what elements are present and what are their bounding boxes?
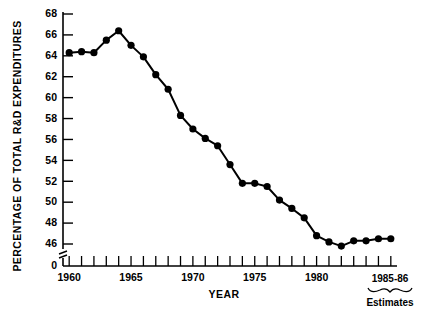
- y-tick-label-zero: 0: [51, 259, 57, 271]
- data-point-1973: [226, 161, 233, 168]
- estimates-label: Estimates: [366, 297, 414, 308]
- y-tick-label-50: 50: [45, 195, 57, 207]
- y-tick-label-68: 68: [45, 7, 57, 19]
- data-point-1979: [301, 214, 308, 221]
- y-tick-label-64: 64: [45, 49, 57, 61]
- x-axis-title-text: YEAR: [209, 288, 240, 300]
- data-point-1975: [251, 180, 258, 187]
- data-point-1983: [350, 237, 357, 244]
- y-tick-label-58: 58: [45, 112, 57, 124]
- data-point-1981: [325, 238, 332, 245]
- y-tick-label-66: 66: [45, 28, 57, 40]
- data-point-1985: [375, 235, 382, 242]
- data-point-1970: [189, 125, 196, 132]
- data-point-1963: [103, 37, 110, 44]
- x-tick-label-1965: 1965: [119, 271, 143, 283]
- y-tick-label-56: 56: [45, 133, 57, 145]
- y-tick-label-48: 48: [45, 216, 57, 228]
- x-tick-label-1970: 1970: [181, 271, 205, 283]
- data-point-1974: [239, 180, 246, 187]
- x-tick-label-1975: 1975: [243, 271, 267, 283]
- data-point-1964: [115, 27, 122, 34]
- data-point-1965: [127, 42, 134, 49]
- y-tick-label-54: 54: [45, 154, 57, 166]
- y-tick-label-52: 52: [45, 175, 57, 187]
- data-point-1980: [313, 232, 320, 239]
- data-point-1978: [288, 205, 295, 212]
- data-point-1986: [387, 235, 394, 242]
- y-tick-label-60: 60: [45, 91, 57, 103]
- data-point-1971: [202, 135, 209, 142]
- data-point-1960: [66, 49, 73, 56]
- data-point-1982: [338, 242, 345, 249]
- x-tick-label-1960: 1960: [58, 271, 82, 283]
- data-point-1966: [140, 53, 147, 60]
- data-point-1976: [264, 183, 271, 190]
- x-axis-title: YEAR: [209, 288, 240, 300]
- rd-expenditures-line-chart: PERCENTAGE OF TOTAL R&D EXPENDITURES 464…: [0, 0, 442, 318]
- data-point-1972: [214, 142, 221, 149]
- y-tick-label-62: 62: [45, 70, 57, 82]
- y-axis-title-text: PERCENTAGE OF TOTAL R&D EXPENDITURES: [11, 20, 23, 271]
- data-point-1984: [362, 237, 369, 244]
- data-point-1962: [90, 49, 97, 56]
- y-axis-title: PERCENTAGE OF TOTAL R&D EXPENDITURES: [11, 20, 23, 271]
- data-point-1968: [165, 86, 172, 93]
- data-point-1977: [276, 196, 283, 203]
- y-tick-label-46: 46: [45, 237, 57, 249]
- data-point-1969: [177, 112, 184, 119]
- data-point-1961: [78, 48, 85, 55]
- chart-container: PERCENTAGE OF TOTAL R&D EXPENDITURES 464…: [0, 0, 442, 318]
- data-point-1967: [152, 71, 159, 78]
- x-tick-label-1980: 1980: [305, 271, 329, 283]
- estimates-range-label: 1985-86: [372, 273, 409, 284]
